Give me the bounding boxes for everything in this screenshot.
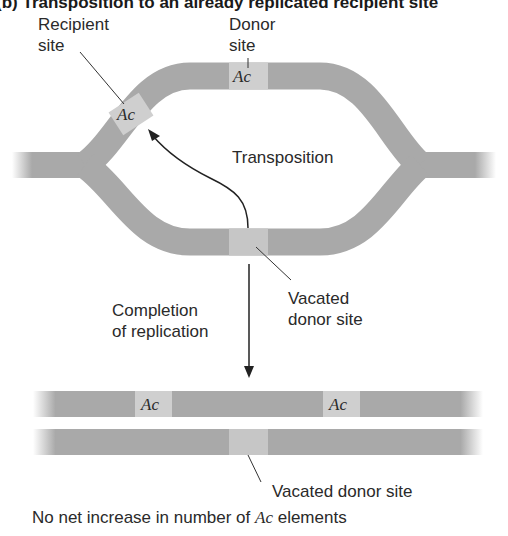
recipient-leader-line — [80, 52, 124, 104]
final-ac-right-label: Ac — [329, 394, 347, 415]
transposition-label: Transposition — [232, 147, 333, 168]
replication-diagram — [0, 0, 508, 536]
donor-ac-label: Ac — [233, 66, 251, 87]
final-ac-left-label: Ac — [141, 394, 159, 415]
recipient-site-label: Recipient site — [38, 14, 109, 56]
recipient-ac-label: Ac — [117, 104, 135, 125]
vacated-leader-line-bottom — [248, 455, 261, 482]
final-strands — [33, 391, 483, 455]
final-strand-1 — [33, 391, 483, 417]
donor-site-label: Donor site — [229, 14, 275, 56]
transposition-arrowhead-icon — [148, 129, 160, 141]
completion-of-replication-label: Completion of replication — [112, 300, 208, 342]
final-vacated-box — [229, 429, 268, 455]
completion-arrowhead-icon — [244, 366, 254, 378]
conclusion-text: No net increase in number of Ac elements — [32, 507, 347, 528]
vacated-donor-site-label-bottom: Vacated donor site — [272, 481, 413, 502]
vacated-donor-site-box — [229, 229, 268, 256]
vacated-donor-site-label-top: Vacated donor site — [288, 288, 363, 330]
